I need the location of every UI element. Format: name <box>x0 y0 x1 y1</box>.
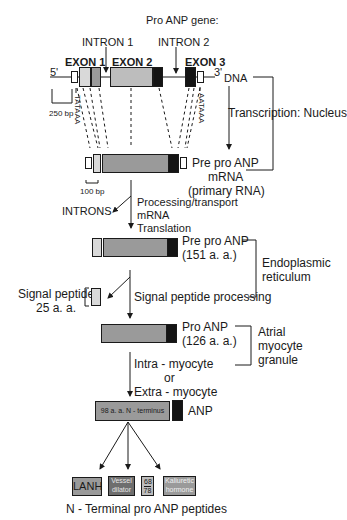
cleave-label-3: Extra - myocyte <box>134 386 217 398</box>
cleave-label-2: or <box>164 372 175 384</box>
exon3-box <box>185 67 196 87</box>
three-prime-label: 3' <box>214 66 222 78</box>
mrna-label-1: Pre pro ANP <box>192 157 259 169</box>
vessel-dilator-box: Vessel dilator <box>108 476 135 496</box>
transcription-label: Transcription: Nucleus <box>228 107 347 119</box>
prepro-pro-box <box>103 238 168 257</box>
exon1a-box <box>79 67 91 87</box>
proanp-anp-box <box>166 324 177 343</box>
signal-label-2: 25 a. a. <box>36 302 76 314</box>
proanp-label-1: Pro ANP <box>182 321 228 333</box>
mrna-label-2: mRNA <box>208 171 243 183</box>
utr3-box <box>197 71 204 83</box>
nterminus-box: 98 a. a. N - terminus <box>95 401 170 421</box>
cleave-label-1: Intra - myocyte <box>134 358 213 370</box>
utr5-box <box>71 71 78 83</box>
prepro-signal-box <box>92 238 102 257</box>
aataaa-label: AATAAA <box>197 93 206 123</box>
granule-label-2: myocyte <box>258 340 303 352</box>
intron2-label: INTRON 2 <box>158 36 209 48</box>
anp-box <box>172 400 183 421</box>
scale-250bp: 250 bp <box>49 108 73 120</box>
introns-label: INTRONS <box>62 205 112 217</box>
processing-label-2: mRNA <box>137 209 169 221</box>
fraction-box: 68 78 <box>141 476 154 496</box>
granule-label-1: Atrial <box>258 326 285 338</box>
signal-peptide-box <box>91 288 101 306</box>
prepro-anp-box <box>167 238 178 257</box>
exon1b-box <box>91 67 101 87</box>
lanh-box: LANH <box>72 477 102 496</box>
processing-label-3: Translation <box>137 222 191 234</box>
vessel-line-1: Vessel <box>109 477 134 485</box>
signal-processing-label: Signal peptide processing <box>134 291 271 303</box>
exon2-dark-box <box>153 67 163 87</box>
mrna-anp-box <box>168 154 179 173</box>
dna-label: DNA <box>224 72 247 84</box>
prepro-label-2: (151 a. a.) <box>182 249 237 261</box>
tataaa-label: TATAAA <box>73 95 82 124</box>
signal-label-1: Signal peptide <box>18 288 94 300</box>
vessel-line-2: dilator <box>109 486 134 494</box>
processing-label-1: Processing/transport <box>137 196 238 208</box>
granule-label-3: granule <box>258 354 298 366</box>
exon2-box <box>110 67 153 87</box>
mrna-utr3-box <box>180 157 187 169</box>
proanp-pro-box <box>101 324 167 343</box>
peptides-caption: N - Terminal pro ANP peptides <box>66 503 227 515</box>
gene-title: Pro ANP gene: <box>146 14 219 26</box>
mrna-utr5-box <box>85 157 92 169</box>
frac-bottom: 78 <box>142 487 153 495</box>
mrna-pro-box <box>102 154 169 173</box>
scale-100bp: 100 bp <box>80 186 104 198</box>
er-label-2: reticulum <box>262 271 311 283</box>
intron1-label: INTRON 1 <box>82 36 133 48</box>
frac-top: 68 <box>144 478 151 487</box>
anp-label: ANP <box>188 405 213 417</box>
er-label-1: Endoplasmic <box>262 257 331 269</box>
kaliuretic-box: Kaliuretic hormone <box>163 476 196 496</box>
prepro-label-1: Pre pro ANP <box>182 235 249 247</box>
kaliuretic-line-1: Kaliuretic <box>164 477 195 485</box>
kaliuretic-line-2: hormone <box>164 486 195 494</box>
mrna-signal-box <box>93 154 101 173</box>
proanp-label-2: (126 a. a.) <box>182 335 237 347</box>
five-prime-label: 5' <box>50 66 58 78</box>
